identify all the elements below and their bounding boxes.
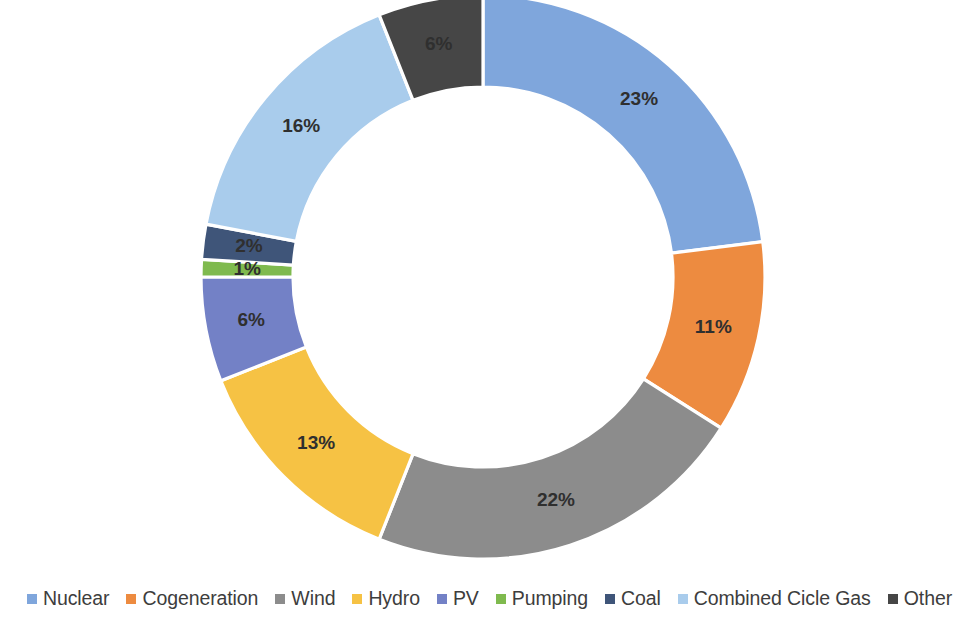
legend-item-label: PV <box>453 589 479 609</box>
legend-swatch-icon <box>126 594 136 604</box>
slice-data-label: 13% <box>297 432 335 453</box>
slice-data-label: 2% <box>235 235 263 256</box>
donut-chart: 23%11%22%13%6%1%2%16%6% NuclearCogenerat… <box>0 0 979 623</box>
donut-slices <box>201 0 765 559</box>
slice-data-label: 23% <box>620 88 658 109</box>
legend-swatch-icon <box>678 594 688 604</box>
slice-data-label: 6% <box>425 33 453 54</box>
legend-swatch-icon <box>605 594 615 604</box>
slice-data-label: 6% <box>237 309 265 330</box>
legend-item-label: Pumping <box>512 589 588 609</box>
legend-item[interactable]: Hydro <box>352 589 420 609</box>
legend-item[interactable]: Nuclear <box>27 589 110 609</box>
donut-svg: 23%11%22%13%6%1%2%16%6% <box>0 0 979 575</box>
legend-item[interactable]: Other <box>888 589 952 609</box>
slice-data-label: 16% <box>282 115 320 136</box>
legend-item[interactable]: Wind <box>275 589 335 609</box>
legend-item-label: Hydro <box>368 589 420 609</box>
legend-swatch-icon <box>888 594 898 604</box>
slice-data-label: 22% <box>537 489 575 510</box>
legend-item-label: Combined Cicle Gas <box>694 589 871 609</box>
legend-item-label: Coal <box>621 589 661 609</box>
slice-data-label: 11% <box>695 316 732 337</box>
legend-item[interactable]: Cogeneration <box>126 589 258 609</box>
legend-item[interactable]: Pumping <box>496 589 588 609</box>
legend-item[interactable]: Coal <box>605 589 661 609</box>
donut-slice[interactable] <box>483 0 763 253</box>
chart-plot-area: 23%11%22%13%6%1%2%16%6% <box>0 0 979 575</box>
legend-swatch-icon <box>352 594 362 604</box>
legend-item-label: Nuclear <box>43 589 110 609</box>
legend-swatch-icon <box>496 594 506 604</box>
legend-swatch-icon <box>437 594 447 604</box>
slice-data-label: 1% <box>233 258 261 279</box>
donut-slice[interactable] <box>379 379 721 559</box>
legend-item[interactable]: Combined Cicle Gas <box>678 589 871 609</box>
legend-item-label: Wind <box>291 589 335 609</box>
chart-legend: NuclearCogenerationWindHydroPVPumpingCoa… <box>0 577 979 621</box>
legend-item[interactable]: PV <box>437 589 479 609</box>
legend-swatch-icon <box>275 594 285 604</box>
legend-swatch-icon <box>27 594 37 604</box>
legend-item-label: Cogeneration <box>142 589 258 609</box>
legend-item-label: Other <box>904 589 952 609</box>
